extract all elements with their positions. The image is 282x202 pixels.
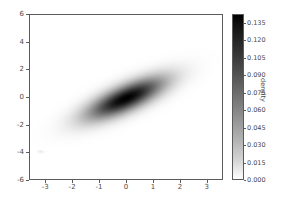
x-tick-label: 2: [178, 183, 182, 191]
y-tick-label: 4: [20, 38, 24, 46]
colorbar-tick-mark: [244, 163, 246, 164]
colorbar-tick-mark: [244, 145, 246, 146]
y-tick-label: -2: [17, 121, 24, 129]
colorbar-tick-mark: [244, 58, 246, 59]
colorbar-tick-label: 0.030: [247, 142, 266, 149]
density-heatmap-canvas: [30, 15, 222, 179]
x-tick-mark: [207, 180, 208, 183]
plot-area: [29, 14, 223, 180]
x-tick-mark: [72, 180, 73, 183]
colorbar-axis-label: density: [259, 78, 266, 102]
colorbar-tick-mark: [244, 110, 246, 111]
colorbar-tick-label: 0.060: [247, 107, 266, 114]
y-axis-tick-labels: 6420-2-4-6: [0, 0, 24, 202]
colorbar-tick-label: 0.120: [247, 37, 266, 44]
colorbar: [232, 14, 244, 180]
y-tick-mark: [26, 152, 29, 153]
y-tick-mark: [26, 97, 29, 98]
y-tick-label: -4: [17, 148, 24, 156]
x-tick-label: -1: [96, 183, 103, 191]
x-tick-label: 1: [151, 183, 155, 191]
x-tick-mark: [180, 180, 181, 183]
x-tick-mark: [45, 180, 46, 183]
y-tick-label: 2: [20, 65, 24, 73]
colorbar-tick-label: 0.135: [247, 19, 266, 26]
colorbar-tick-mark: [244, 75, 246, 76]
x-tick-mark: [153, 180, 154, 183]
y-tick-mark: [26, 42, 29, 43]
y-tick-mark: [26, 14, 29, 15]
density-plot-figure: 6420-2-4-6 -3-2-10123 0.0000.0150.0300.0…: [0, 0, 282, 202]
x-tick-label: 3: [205, 183, 209, 191]
y-tick-mark: [26, 180, 29, 181]
colorbar-tick-mark: [244, 93, 246, 94]
colorbar-tick-label: 0.000: [247, 177, 266, 184]
colorbar-tick-mark: [244, 128, 246, 129]
y-tick-mark: [26, 69, 29, 70]
colorbar-tick-label: 0.105: [247, 54, 266, 61]
x-tick-mark: [126, 180, 127, 183]
x-tick-label: 0: [124, 183, 128, 191]
x-tick-label: -2: [69, 183, 76, 191]
x-tick-label: -3: [42, 183, 49, 191]
y-tick-mark: [26, 125, 29, 126]
x-tick-mark: [99, 180, 100, 183]
colorbar-tick-label: 0.045: [247, 124, 266, 131]
y-tick-label: 6: [20, 10, 24, 18]
colorbar-tick-mark: [244, 180, 246, 181]
colorbar-tick-label: 0.015: [247, 159, 266, 166]
colorbar-tick-mark: [244, 23, 246, 24]
colorbar-tick-mark: [244, 40, 246, 41]
y-tick-label: 0: [20, 93, 24, 101]
x-axis-tick-labels: -3-2-10123: [0, 183, 282, 197]
